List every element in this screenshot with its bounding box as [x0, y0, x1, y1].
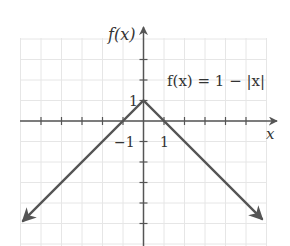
x-axis-label: x [266, 125, 275, 143]
x-tick-label-1: 1 [160, 134, 169, 150]
function-label: f(x) = 1 − |x| [167, 72, 265, 90]
function-graph: f(x) x f(x) = 1 − |x| 1 −1 1 [0, 0, 290, 246]
y-tick-label-1: 1 [129, 93, 138, 109]
y-tick-label-neg1: −1 [114, 134, 135, 150]
y-axis-label: f(x) [107, 25, 135, 44]
